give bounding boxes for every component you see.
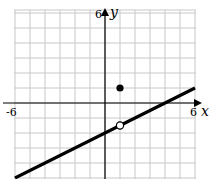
y-max-tick-label: 6 [95, 8, 102, 21]
coordinate-graph: -6 6 x 6 y [0, 0, 211, 179]
filled-dot [116, 84, 123, 91]
x-axis-label: x [201, 103, 209, 119]
y-axis-arrow-icon [101, 8, 109, 16]
open-circle [116, 122, 123, 129]
y-axis-label: y [109, 4, 119, 20]
x-min-tick-label: -6 [6, 106, 17, 119]
x-max-tick-label: 6 [190, 106, 197, 119]
